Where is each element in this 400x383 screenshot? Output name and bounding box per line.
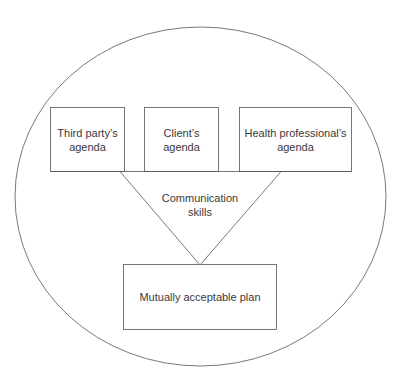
plan-text: Mutually acceptable plan	[139, 290, 260, 304]
mutually-acceptable-plan-label: Mutually acceptable plan	[123, 264, 277, 330]
health-professional-agenda-label: Health professional’sagenda	[239, 107, 352, 172]
communication-skills-label: Communicationskills	[140, 191, 260, 219]
third-party-agenda-label: Third party’sagenda	[50, 107, 125, 172]
communication-line1: Communication	[162, 192, 238, 204]
communication-line2: skills	[188, 206, 212, 218]
client-agenda-label: Client’sagenda	[144, 107, 219, 172]
health-professional-line1: Health professional’s	[245, 127, 347, 139]
client-line2: agenda	[163, 141, 200, 153]
client-line1: Client’s	[164, 127, 200, 139]
third-party-line1: Third party’s	[57, 127, 117, 139]
third-party-line2: agenda	[69, 141, 106, 153]
health-professional-line2: agenda	[277, 141, 314, 153]
